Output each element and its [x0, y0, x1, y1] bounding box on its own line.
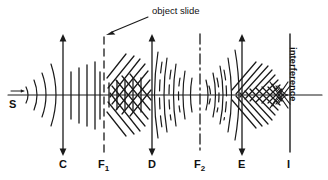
source-label: S	[9, 98, 16, 110]
label-lens-c: C	[59, 158, 67, 170]
label-focal-plane-f2: F2	[194, 158, 205, 173]
label-lens-e: E	[238, 158, 245, 170]
object-slide-label: object slide	[152, 5, 200, 16]
diagram-canvas	[0, 0, 328, 180]
label-focal-plane-f1: F1	[98, 158, 109, 173]
label-lens-d: D	[148, 158, 156, 170]
label-screen-i: I	[287, 158, 290, 170]
interference-label: interference	[288, 47, 299, 101]
optics-diagram: object slide S C F1 D F2 E I interferenc…	[0, 0, 328, 180]
source-marker	[11, 89, 24, 93]
object-slide-leader	[106, 17, 148, 35]
